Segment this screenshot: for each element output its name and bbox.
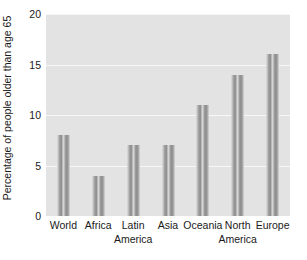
x-tick-label-world: World: [50, 219, 77, 233]
x-tick-label-asia: Asia: [158, 219, 178, 233]
x-tick-label-line1: Oceania: [183, 219, 222, 231]
x-tick-label-line1: Europe: [256, 219, 290, 231]
gridline: [46, 65, 290, 66]
x-tick-label-europe: Europe: [256, 219, 290, 233]
y-tick-label: 15: [16, 59, 41, 71]
bar: [196, 105, 209, 216]
x-tick-label-africa: Africa: [85, 219, 112, 233]
y-tick-label: 0: [16, 210, 41, 222]
gridline: [46, 14, 290, 15]
y-tick-label: 10: [16, 109, 41, 121]
bar: [57, 135, 70, 216]
x-axis-tick-labels: World Africa Latin America Asia Oceania …: [46, 219, 290, 259]
bar: [127, 145, 140, 216]
y-tick-label: 5: [16, 160, 41, 172]
bar: [92, 176, 105, 216]
x-tick-label-line2: America: [218, 233, 257, 247]
plot-area: [46, 14, 290, 216]
bar: [162, 145, 175, 216]
x-tick-label-line1: World: [50, 219, 77, 231]
x-tick-label-line1: Latin: [122, 219, 145, 231]
bar: [266, 54, 279, 216]
y-axis-title: Percentage of people older than age 65: [0, 0, 14, 216]
x-tick-label-line1: Asia: [158, 219, 178, 231]
x-tick-label-latin-america: Latin America: [114, 219, 153, 246]
bar: [231, 75, 244, 216]
x-tick-label-oceania: Oceania: [183, 219, 222, 233]
bar-chart: Percentage of people older than age 65 2…: [0, 0, 307, 260]
x-tick-label-line2: America: [114, 233, 153, 247]
x-tick-label-north-america: North America: [218, 219, 257, 246]
gridline: [46, 115, 290, 116]
x-tick-label-line1: North: [225, 219, 251, 231]
x-tick-label-line1: Africa: [85, 219, 112, 231]
y-tick-label: 20: [16, 8, 41, 20]
